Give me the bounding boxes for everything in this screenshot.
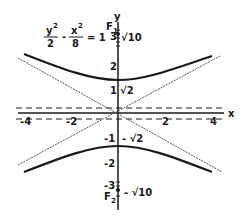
svg-text:8: 8 xyxy=(72,38,79,49)
y-tick-neg1: -1 xyxy=(104,133,115,144)
svg-text:2: 2 xyxy=(78,22,83,30)
y-axis-label: y xyxy=(114,11,121,22)
focus-f1-value: √10 xyxy=(121,32,142,43)
svg-text:= 1: = 1 xyxy=(87,32,106,43)
focus-f1-subscript: 1 xyxy=(113,27,118,35)
x-tick-2: 2 xyxy=(162,116,169,127)
vertex-bottom-value: - √2 xyxy=(122,133,143,144)
x-tick-4: 4 xyxy=(210,116,217,127)
focus-f2-label: F xyxy=(104,191,111,202)
hyperbola-diagram: y x -4 -2 2 4 3 2 1 -1 -2 -3 F 1 √10 F 2… xyxy=(0,0,241,219)
x-axis-label: x xyxy=(228,108,235,119)
x-tick-neg2: -2 xyxy=(66,116,77,127)
asymptote-negative xyxy=(18,58,222,172)
focus-f2-subscript: 2 xyxy=(111,197,116,205)
focus-f1-label: F xyxy=(106,21,113,32)
focus-f2-value: - √10 xyxy=(124,187,152,198)
y-tick-2: 2 xyxy=(110,61,117,72)
svg-text:2: 2 xyxy=(53,22,58,30)
svg-text:2: 2 xyxy=(47,38,54,49)
y-tick-neg3: -3 xyxy=(104,180,115,191)
svg-text:x: x xyxy=(71,25,78,36)
svg-text:-: - xyxy=(62,31,66,42)
equation: y 2 2 - x 2 8 = 1 xyxy=(44,22,106,49)
x-tick-neg4: -4 xyxy=(20,116,31,127)
y-tick-1: 1 xyxy=(110,85,117,96)
y-tick-neg2: -2 xyxy=(104,158,115,169)
vertex-top-value: √2 xyxy=(120,85,134,96)
asymptote-positive xyxy=(18,56,220,165)
focus-f2-point xyxy=(116,188,120,192)
svg-text:y: y xyxy=(46,25,53,36)
